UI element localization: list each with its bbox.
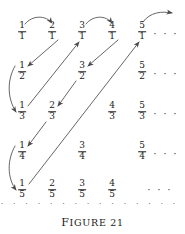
denominator: 3 bbox=[48, 112, 56, 122]
fraction-5-over-4: 54 bbox=[138, 141, 146, 162]
fraction: 31 bbox=[78, 21, 86, 42]
numerator: 1 bbox=[18, 21, 26, 32]
numerator: 3 bbox=[78, 21, 86, 32]
numerator: 1 bbox=[18, 101, 26, 112]
row-ellipsis-1: · · · bbox=[154, 30, 179, 39]
fraction: 15 bbox=[18, 179, 26, 200]
numerator: 1 bbox=[18, 179, 26, 190]
fraction: 32 bbox=[78, 61, 86, 82]
numerator: 5 bbox=[138, 61, 146, 72]
figure-21: 11213141511232521323435314345415253545· … bbox=[0, 0, 185, 234]
fraction: 34 bbox=[78, 141, 86, 162]
numerator: 1 bbox=[18, 61, 26, 72]
denominator: 4 bbox=[18, 152, 26, 162]
fraction-2-over-1: 21 bbox=[48, 21, 56, 42]
denominator: 1 bbox=[108, 32, 116, 42]
fraction: 21 bbox=[48, 21, 56, 42]
caption-first-letter: F bbox=[61, 216, 69, 229]
denominator: 4 bbox=[78, 152, 86, 162]
fraction-5-over-1: 51 bbox=[138, 21, 146, 42]
figure-caption: FIGURE 21 bbox=[0, 216, 185, 229]
numerator: 5 bbox=[138, 141, 146, 152]
denominator: 3 bbox=[138, 112, 146, 122]
numerator: 5 bbox=[138, 21, 146, 32]
denominator: 1 bbox=[48, 32, 56, 42]
fraction: 45 bbox=[108, 179, 116, 200]
numerator: 4 bbox=[108, 101, 116, 112]
fraction: 54 bbox=[138, 141, 146, 162]
fraction-3-over-5: 35 bbox=[78, 179, 86, 200]
denominator: 1 bbox=[138, 32, 146, 42]
fraction-3-over-1: 31 bbox=[78, 21, 86, 42]
fraction: 12 bbox=[18, 61, 26, 82]
fraction: 11 bbox=[18, 21, 26, 42]
numerator: 3 bbox=[78, 179, 86, 190]
fraction-4-over-3: 43 bbox=[108, 101, 116, 122]
row-ellipsis-3: · · · bbox=[154, 110, 179, 119]
numerator: 1 bbox=[18, 141, 26, 152]
fraction: 53 bbox=[138, 101, 146, 122]
fraction-3-over-2: 32 bbox=[78, 61, 86, 82]
fraction-4-over-5: 45 bbox=[108, 179, 116, 200]
denominator: 3 bbox=[18, 112, 26, 122]
denominator: 2 bbox=[78, 72, 86, 82]
numerator: 4 bbox=[108, 21, 116, 32]
fraction: 52 bbox=[138, 61, 146, 82]
caption-word: IGURE bbox=[70, 217, 107, 228]
fraction: 23 bbox=[48, 101, 56, 122]
fraction-1-over-5: 15 bbox=[18, 179, 26, 200]
fraction-1-over-1: 11 bbox=[18, 21, 26, 42]
fraction-5-over-3: 53 bbox=[138, 101, 146, 122]
fraction-2-over-3: 23 bbox=[48, 101, 56, 122]
denominator: 4 bbox=[138, 152, 146, 162]
fraction: 25 bbox=[48, 179, 56, 200]
numerator: 5 bbox=[138, 101, 146, 112]
fraction-1-over-2: 12 bbox=[18, 61, 26, 82]
numerator: 3 bbox=[78, 141, 86, 152]
rational-number-grid: 11213141511232521323435314345415253545· … bbox=[0, 0, 185, 234]
row-ellipsis-4: · · · bbox=[154, 150, 179, 159]
numerator: 4 bbox=[108, 179, 116, 190]
bottom-ellipsis-row: · · · · · · · · · · · · · · · · · · · · … bbox=[0, 200, 185, 208]
fraction: 35 bbox=[78, 179, 86, 200]
fraction-1-over-3: 13 bbox=[18, 101, 26, 122]
fraction-1-over-4: 14 bbox=[18, 141, 26, 162]
numerator: 3 bbox=[78, 61, 86, 72]
fraction: 13 bbox=[18, 101, 26, 122]
fraction-3-over-4: 34 bbox=[78, 141, 86, 162]
denominator: 1 bbox=[18, 32, 26, 42]
numerator: 2 bbox=[48, 101, 56, 112]
caption-number: 21 bbox=[110, 217, 124, 228]
denominator: 3 bbox=[108, 112, 116, 122]
fraction: 43 bbox=[108, 101, 116, 122]
denominator: 2 bbox=[18, 72, 26, 82]
fraction-5-over-2: 52 bbox=[138, 61, 146, 82]
row-ellipsis-5: · · · bbox=[148, 186, 173, 195]
denominator: 2 bbox=[138, 72, 146, 82]
fraction: 41 bbox=[108, 21, 116, 42]
numerator: 2 bbox=[48, 179, 56, 190]
denominator: 1 bbox=[78, 32, 86, 42]
fraction-2-over-5: 25 bbox=[48, 179, 56, 200]
numerator: 2 bbox=[48, 21, 56, 32]
fraction: 51 bbox=[138, 21, 146, 42]
fraction: 14 bbox=[18, 141, 26, 162]
fraction-4-over-1: 41 bbox=[108, 21, 116, 42]
row-ellipsis-2: · · · bbox=[154, 70, 179, 79]
